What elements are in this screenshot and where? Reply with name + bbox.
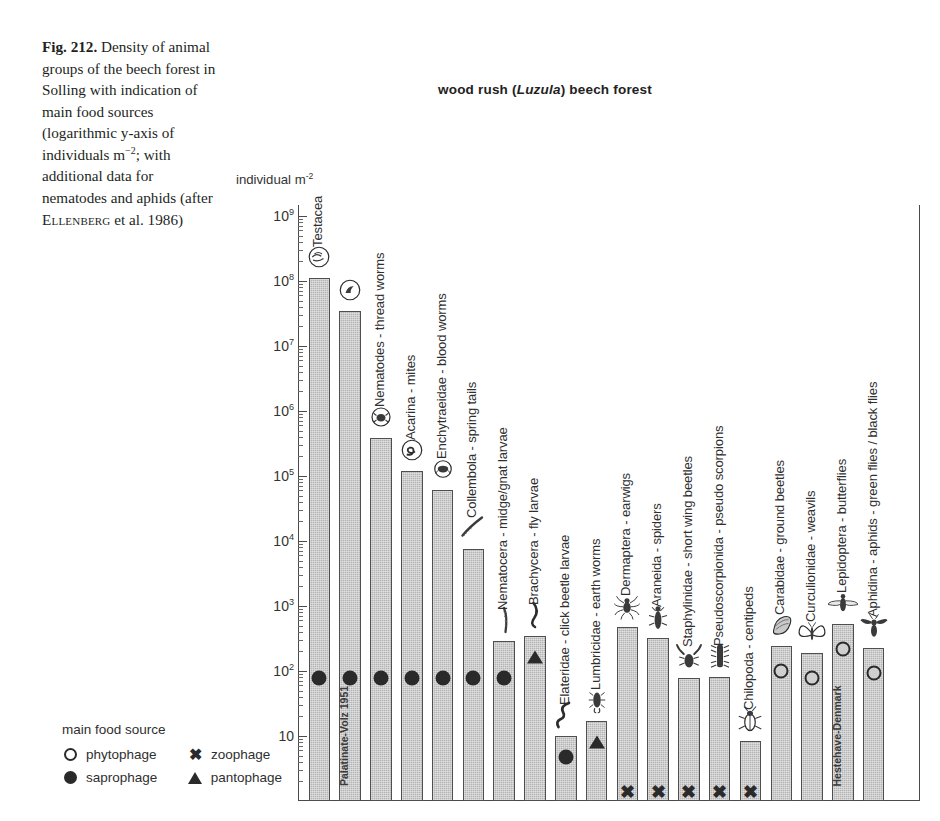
x-mark-icon: ✖ xyxy=(681,785,696,800)
y-tick-exponent: 3 xyxy=(289,597,294,607)
bar[interactable] xyxy=(863,648,885,801)
legend-item-phytophage: phytophage xyxy=(62,746,187,763)
y-axis-minor-tick xyxy=(298,575,303,576)
y-axis-tick-label: 107 xyxy=(273,338,294,354)
bar[interactable] xyxy=(370,438,392,801)
y-axis-minor-tick xyxy=(298,770,303,771)
y-axis-minor-tick xyxy=(298,482,303,483)
y-axis-minor-tick xyxy=(298,616,303,617)
x-mark-icon: ✖ xyxy=(651,785,666,800)
y-axis-minor-tick xyxy=(298,287,303,288)
y-axis-tick-label: 103 xyxy=(273,598,294,614)
y-axis-minor-tick xyxy=(298,456,303,457)
y-axis-major-tick xyxy=(298,541,307,542)
bar[interactable] xyxy=(771,646,793,801)
y-axis-minor-tick xyxy=(298,242,303,243)
y-tick-exponent: 9 xyxy=(289,207,294,217)
y-axis-minor-tick xyxy=(298,372,303,373)
y-axis-minor-tick xyxy=(298,479,303,480)
bar[interactable] xyxy=(493,641,515,801)
filled-circle-icon xyxy=(312,671,327,686)
y-axis-tick-label: 102 xyxy=(273,663,294,679)
y-axis-minor-tick xyxy=(298,366,303,367)
y-axis-minor-tick xyxy=(298,586,303,587)
y-axis-minor-tick xyxy=(298,742,303,743)
y-axis-minor-tick xyxy=(298,261,303,262)
legend-label: phytophage xyxy=(86,747,157,762)
y-axis-labels: 10910810710610510410310210 xyxy=(232,205,294,801)
category-label: Chilopoda - centipeds xyxy=(741,586,756,710)
category-label: Brachycera - fly larvae xyxy=(526,478,541,605)
y-axis-minor-tick xyxy=(298,326,303,327)
category-label: Collembola - spring tails xyxy=(464,382,479,518)
bar[interactable]: ✖ xyxy=(709,677,731,801)
y-axis-minor-tick xyxy=(298,746,303,747)
x-mark-icon: ✖ xyxy=(712,785,727,800)
y-axis-minor-tick xyxy=(298,681,303,682)
y-axis-minor-tick xyxy=(298,750,303,751)
y-axis-minor-tick xyxy=(298,349,303,350)
nematode-amoeba-icon xyxy=(335,275,365,305)
y-axis-minor-tick xyxy=(298,632,303,633)
bar[interactable]: ✖ xyxy=(647,638,669,801)
bar[interactable] xyxy=(432,490,454,801)
triangle-icon xyxy=(589,736,605,749)
y-axis-minor-tick xyxy=(298,315,303,316)
legend-item-zoophage: ✖ zoophage xyxy=(187,746,270,763)
category-label: Nematocera - midge/gnat larvae xyxy=(495,427,510,610)
filled-circle-icon xyxy=(435,671,450,686)
bar[interactable] xyxy=(555,736,577,801)
y-axis-tick-label: 106 xyxy=(273,403,294,419)
filled-circle-icon xyxy=(466,671,481,686)
open-circle-icon xyxy=(774,664,789,679)
y-axis-minor-tick xyxy=(298,431,303,432)
legend-item-saprophage: saprophage xyxy=(62,769,187,786)
y-axis-minor-tick xyxy=(298,486,303,487)
y-axis-minor-tick xyxy=(298,609,303,610)
y-axis-major-tick xyxy=(298,476,307,477)
bar[interactable]: ✖ xyxy=(617,627,639,801)
bar[interactable]: Hestehave-Denmark xyxy=(832,624,854,801)
chart-title-prefix: wood rush ( xyxy=(438,82,517,97)
bar[interactable]: ✖ xyxy=(740,741,762,801)
y-axis-minor-tick xyxy=(298,521,303,522)
bar[interactable] xyxy=(586,721,608,801)
bar[interactable]: Palatinate-Volz 1951 xyxy=(339,311,361,801)
bar[interactable] xyxy=(524,636,546,801)
y-axis-major-tick xyxy=(298,411,307,412)
y-axis-minor-tick xyxy=(298,291,303,292)
figure-number: Fig. 212. xyxy=(42,38,97,55)
chart-title-suffix: ) beech forest xyxy=(561,82,652,97)
legend-row: phytophage ✖ zoophage xyxy=(62,746,282,763)
y-axis-minor-tick xyxy=(298,551,303,552)
y-axis-minor-tick xyxy=(298,685,303,686)
caption-author: Ellenberg xyxy=(42,211,111,228)
category-label: Testacea xyxy=(310,196,325,247)
open-circle-icon xyxy=(805,670,820,685)
y-axis-minor-tick xyxy=(298,414,303,415)
y-axis-minor-tick xyxy=(298,510,303,511)
bar[interactable] xyxy=(309,278,331,801)
y-tick-base: 10 xyxy=(273,273,289,289)
y-axis-minor-tick xyxy=(298,547,303,548)
y-axis-minor-tick xyxy=(298,626,303,627)
y-axis-major-tick xyxy=(298,606,307,607)
bar[interactable] xyxy=(801,653,823,801)
bar[interactable] xyxy=(463,549,485,801)
triangle-icon xyxy=(527,651,543,664)
y-axis-minor-tick xyxy=(298,222,303,223)
y-axis-minor-tick xyxy=(298,380,303,381)
category-label: Carabidae - ground beetles xyxy=(772,460,787,615)
y-axis-unit-text: individual m xyxy=(236,172,306,187)
bar[interactable] xyxy=(401,471,423,801)
legend-label: zoophage xyxy=(211,747,270,762)
y-axis-tick-label: 105 xyxy=(273,468,294,484)
y-axis-major-tick xyxy=(298,281,307,282)
y-axis-tick-label: 109 xyxy=(273,208,294,224)
filled-circle-icon xyxy=(404,671,419,686)
bar[interactable]: ✖ xyxy=(678,678,700,801)
y-axis-minor-tick xyxy=(298,756,303,757)
open-circle-icon xyxy=(835,642,850,657)
x-mark-icon: ✖ xyxy=(743,785,758,800)
y-axis-minor-tick xyxy=(298,567,303,568)
